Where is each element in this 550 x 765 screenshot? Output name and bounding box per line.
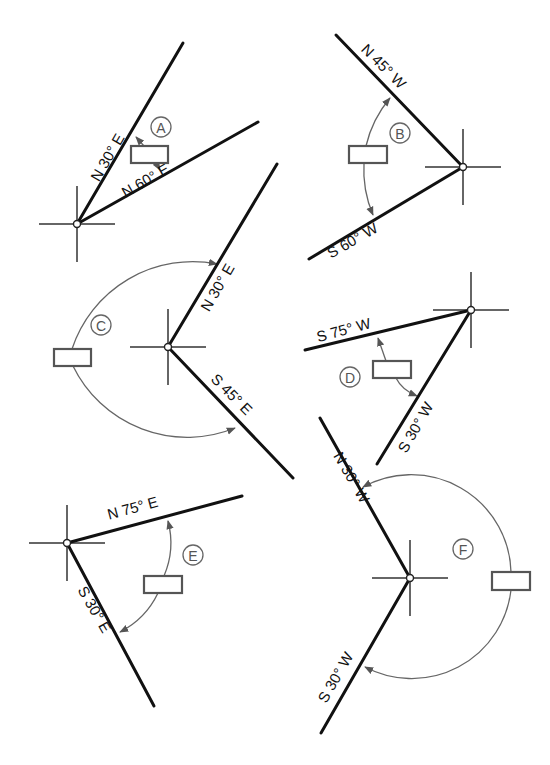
figure-c: N 30° ES 45° EC (54, 164, 293, 478)
arc-c-to-n30e (72, 262, 217, 349)
figure-d: S 75° WS 30° WD (305, 272, 509, 464)
figure-tag-letter: F (459, 542, 468, 558)
station-point (407, 575, 414, 582)
arc-a-to-n30e (136, 137, 144, 146)
station-point (64, 540, 71, 547)
arc-b-to-n45w (366, 98, 390, 146)
station-point (468, 307, 475, 314)
answer-box[interactable] (492, 572, 530, 590)
arc-b-to-s60w (364, 163, 373, 215)
figure-tag-letter: D (345, 370, 355, 386)
bearing-label: S 60° W (324, 219, 381, 262)
bearing-label: N 30° W (330, 449, 373, 507)
answer-box[interactable] (54, 349, 91, 366)
arc-f-to-n30w (363, 475, 511, 572)
bearing-label: N 60° E (119, 160, 172, 201)
answer-box[interactable] (144, 576, 182, 593)
bearing-line (168, 347, 293, 478)
bearing-line (377, 310, 471, 464)
bearing-line (321, 578, 410, 733)
figure-tag-letter: E (188, 548, 197, 564)
answer-box[interactable] (349, 146, 387, 163)
bearing-diagram: N 30° EN 60° EAN 45° WS 60° WBN 30° ES 4… (0, 0, 550, 765)
answer-box[interactable] (373, 361, 411, 378)
arc-d-to-s30w (396, 378, 417, 396)
bearing-label: N 30° E (87, 131, 128, 184)
bearing-label: S 45° E (208, 370, 256, 418)
figure-a: N 30° EN 60° EA (39, 43, 258, 262)
figure-tag-letter: A (156, 120, 166, 136)
station-point (74, 221, 81, 228)
arc-d-to-s75w (378, 338, 386, 361)
station-point (460, 164, 467, 171)
arc-c-to-s45e (73, 366, 235, 437)
answer-box[interactable] (131, 146, 168, 163)
station-point (165, 344, 172, 351)
bearing-label: S 30° W (314, 648, 357, 705)
arc-e-to-s30e (120, 593, 158, 632)
bearing-line (168, 164, 277, 347)
figure-tag-letter: B (395, 126, 404, 142)
figure-f: N 30° WS 30° WF (314, 418, 530, 733)
bearing-label: S 30° E (75, 583, 115, 636)
bearing-label: N 75° E (105, 493, 159, 523)
arc-e-to-n75e (164, 521, 171, 576)
figure-tag-letter: C (96, 318, 106, 334)
arc-f-to-s30w (365, 590, 511, 679)
figure-b: N 45° WS 60° WB (309, 35, 501, 261)
figure-e: N 75° ES 30° EE (29, 493, 242, 706)
